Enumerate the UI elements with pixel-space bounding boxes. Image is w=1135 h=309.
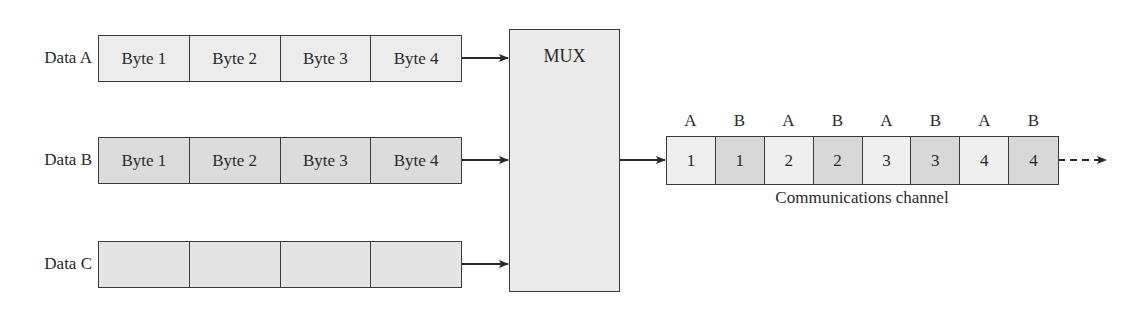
- channel-slot-a2: 2: [765, 137, 814, 184]
- data-b-byte-1: Byte 1: [99, 138, 190, 183]
- channel-slot-a4: 4: [960, 137, 1009, 184]
- data-a-byte-1: Byte 1: [99, 36, 190, 81]
- channel-slot-a1: 1: [667, 137, 716, 184]
- data-b-label: Data B: [2, 150, 92, 170]
- channel-source-label: B: [813, 111, 862, 131]
- channel-slot-b2: 2: [814, 137, 863, 184]
- channel-source-label: A: [862, 111, 911, 131]
- channel-source-label: A: [960, 111, 1009, 131]
- data-a-byte-2: Byte 2: [190, 36, 281, 81]
- data-c-label: Data C: [2, 254, 92, 274]
- data-a-label: Data A: [2, 48, 92, 68]
- data-a-byte-4: Byte 4: [371, 36, 461, 81]
- channel-source-label: A: [764, 111, 813, 131]
- channel-slot-b1: 1: [716, 137, 765, 184]
- data-b-byte-4: Byte 4: [371, 138, 461, 183]
- channel-source-label: B: [715, 111, 764, 131]
- channel-source-label: B: [1009, 111, 1058, 131]
- data-c-byte-3: [281, 242, 372, 287]
- data-c-byte-2: [190, 242, 281, 287]
- data-c-buffer: [98, 241, 462, 288]
- data-b-byte-2: Byte 2: [190, 138, 281, 183]
- channel-caption: Communications channel: [666, 188, 1058, 208]
- data-c-byte-4: [371, 242, 461, 287]
- channel-source-label: A: [666, 111, 715, 131]
- mux-block: MUX: [509, 29, 620, 292]
- data-a-byte-3: Byte 3: [281, 36, 372, 81]
- data-a-buffer: Byte 1 Byte 2 Byte 3 Byte 4: [98, 35, 462, 82]
- channel-slot-a3: 3: [863, 137, 912, 184]
- mux-label: MUX: [543, 46, 585, 291]
- data-c-byte-1: [99, 242, 190, 287]
- communications-channel: 1 1 2 2 3 3 4 4: [666, 136, 1059, 185]
- channel-slot-b4: 4: [1009, 137, 1058, 184]
- channel-slot-b3: 3: [911, 137, 960, 184]
- data-b-buffer: Byte 1 Byte 2 Byte 3 Byte 4: [98, 137, 462, 184]
- channel-source-label: B: [911, 111, 960, 131]
- channel-source-labels: A B A B A B A B: [666, 111, 1058, 131]
- data-b-byte-3: Byte 3: [281, 138, 372, 183]
